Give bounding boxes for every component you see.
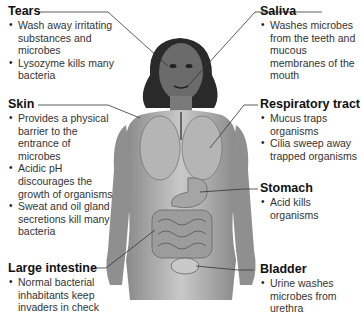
label-title: Large intestine — [8, 261, 108, 276]
label-tears: Tears Wash away irritating substances an… — [8, 4, 116, 82]
bullet: Washes microbes from the teeth and mucou… — [260, 19, 360, 82]
label-title: Respiratory tract — [260, 97, 361, 112]
label-respiratory-tract: Respiratory tract Mucus traps organisms … — [260, 97, 361, 162]
label-title: Stomach — [260, 181, 361, 196]
label-title: Bladder — [260, 262, 350, 277]
bullet: Lysozyme kills many bacteria — [8, 57, 116, 82]
label-stomach: Stomach Acid kills organisms — [260, 181, 361, 221]
bullet: Urine washes microbes from urethra — [260, 277, 350, 315]
label-skin: Skin Provides a physical barrier to the … — [8, 97, 113, 238]
label-title: Tears — [8, 4, 116, 19]
bullet: Acid kills organisms — [260, 196, 361, 221]
label-title: Skin — [8, 97, 113, 112]
bullet: Wash away irritating substances and micr… — [8, 19, 116, 57]
bullet: Mucus traps organisms — [260, 112, 361, 137]
bullet: Sweat and oil gland secretions kill many… — [8, 200, 113, 238]
bullet: Normal bacterial inhabitants keep invade… — [8, 276, 108, 314]
bullet: Cilia sweep away trapped organisms — [260, 137, 361, 162]
body-defense-diagram: Tears Wash away irritating substances an… — [0, 0, 361, 325]
label-large-intestine: Large intestine Normal bacterial inhabit… — [8, 261, 108, 314]
label-saliva: Saliva Washes microbes from the teeth an… — [260, 4, 360, 82]
bullet: Provides a physical barrier to the entra… — [8, 112, 113, 162]
label-bladder: Bladder Urine washes microbes from ureth… — [260, 262, 350, 315]
bullet: Acidic pH discourages the growth of orga… — [8, 162, 113, 200]
label-title: Saliva — [260, 4, 360, 19]
face-shape — [159, 43, 203, 101]
